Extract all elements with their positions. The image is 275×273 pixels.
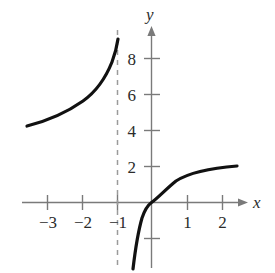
y-tick-label-6: 6 xyxy=(112,87,136,104)
y-tick-label-8: 8 xyxy=(112,51,136,68)
coordinate-plot xyxy=(0,0,275,273)
x-axis xyxy=(22,198,248,206)
x-tick-label-neg2: −2 xyxy=(67,214,99,231)
x-tick-label-pos1: 1 xyxy=(176,214,199,231)
y-tick-label-4: 4 xyxy=(112,123,136,140)
graph-figure: −3 −2 −1 1 2 8 6 4 2 y x xyxy=(0,0,275,273)
x-axis-arrowhead xyxy=(238,198,248,206)
y-axis-label: y xyxy=(146,6,154,23)
x-tick-label-neg1: −1 xyxy=(102,214,134,231)
y-axis-arrowhead xyxy=(147,26,155,36)
x-tick-label-neg3: −3 xyxy=(32,214,64,231)
curve-left-branch xyxy=(27,39,118,126)
y-axis xyxy=(147,26,155,268)
y-tick-label-2: 2 xyxy=(112,159,136,176)
x-axis-label: x xyxy=(253,194,261,211)
x-tick-label-pos2: 2 xyxy=(211,214,234,231)
